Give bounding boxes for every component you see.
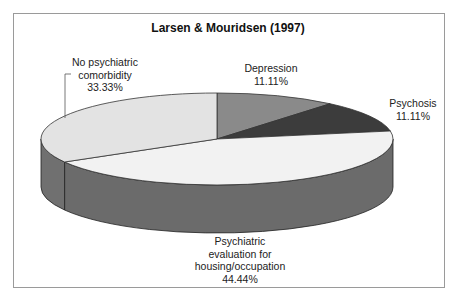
pie-tops [41, 93, 393, 185]
data-label: No psychiatriccomorbidity33.33% [72, 56, 138, 93]
pie-chart: Larsen & Mouridsen (1997)Depression11.11… [0, 0, 457, 300]
data-label: Psychosis11.11% [389, 97, 436, 122]
data-label: Depression11.11% [244, 62, 297, 87]
leader-line [65, 74, 71, 118]
data-label: Psychiatricevaluation forhousing/occupat… [195, 235, 286, 285]
chart-title-text: Larsen & Mouridsen (1997) [151, 21, 304, 35]
